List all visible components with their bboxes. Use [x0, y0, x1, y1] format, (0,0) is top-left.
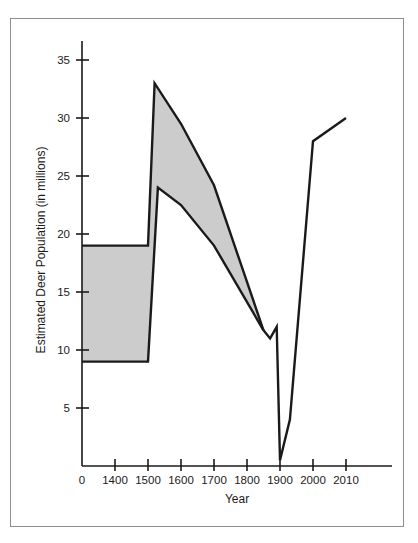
x-tick-label: 2000	[300, 474, 326, 486]
x-tick-label: 1700	[201, 474, 227, 486]
x-tick-label: 1600	[168, 474, 194, 486]
post-convergence-line	[264, 118, 347, 460]
x-axis-title: Year	[225, 492, 249, 506]
deer-population-chart: 5101520253035 01400150016001700180019002…	[0, 0, 418, 543]
y-axis-title: Estimated Deer Population (in millions)	[34, 147, 48, 354]
x-tick-label: 2010	[333, 474, 359, 486]
y-tick-label: 25	[57, 170, 70, 182]
x-tick-label: 1500	[135, 474, 161, 486]
y-tick-label: 5	[64, 402, 70, 414]
x-tick-label: 1900	[267, 474, 293, 486]
y-tick-label: 35	[57, 54, 70, 66]
uncertainty-band-area	[82, 83, 264, 361]
x-tick-label: 1800	[234, 474, 260, 486]
y-tick-label: 10	[57, 344, 70, 356]
y-tick-label: 20	[57, 228, 70, 240]
x-axis-ticks: 014001500160017001800190020002010	[79, 459, 359, 486]
x-tick-label: 0	[79, 474, 85, 486]
y-tick-label: 15	[57, 286, 70, 298]
y-tick-label: 30	[57, 112, 70, 124]
x-tick-label: 1400	[102, 474, 128, 486]
